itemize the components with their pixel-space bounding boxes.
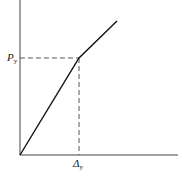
yield-displacement-subscript: y (79, 163, 83, 171)
yield-load-label: Py (7, 52, 17, 65)
yield-load-symbol: P (7, 51, 14, 63)
yield-displacement-label: Δy (73, 158, 83, 171)
diagram-canvas (0, 0, 181, 172)
yield-load-subscript: y (14, 57, 18, 65)
bilinear-curve (20, 21, 117, 155)
